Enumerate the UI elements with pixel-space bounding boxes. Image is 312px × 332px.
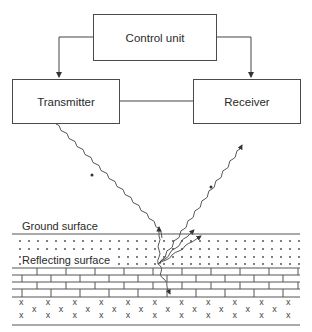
svg-text:x: x bbox=[19, 297, 24, 307]
svg-text:x: x bbox=[72, 310, 77, 320]
svg-text:x: x bbox=[179, 310, 184, 320]
svg-text:x: x bbox=[85, 304, 90, 314]
svg-text:x: x bbox=[179, 297, 184, 307]
svg-text:x: x bbox=[19, 310, 24, 320]
svg-text:x: x bbox=[233, 297, 238, 307]
reflecting-surface-label: Reflecting surface bbox=[22, 254, 112, 266]
svg-text:x: x bbox=[139, 304, 144, 314]
ground-surface-label: Ground surface bbox=[22, 220, 98, 232]
svg-text:x: x bbox=[112, 304, 117, 314]
svg-text:x: x bbox=[126, 310, 131, 320]
receiver-block: Receiver bbox=[193, 79, 301, 124]
svg-text:x: x bbox=[272, 304, 277, 314]
svg-text:x: x bbox=[286, 297, 291, 307]
svg-text:x: x bbox=[259, 310, 264, 320]
svg-text:x: x bbox=[46, 310, 51, 320]
svg-text:x: x bbox=[192, 304, 197, 314]
rock-crosses: xxxxxxxxxxxxxxxxxxxxxxxxxxxxxxxx bbox=[19, 297, 291, 320]
svg-text:x: x bbox=[99, 297, 104, 307]
svg-text:x: x bbox=[46, 297, 51, 307]
svg-text:x: x bbox=[206, 310, 211, 320]
svg-text:x: x bbox=[166, 304, 171, 314]
svg-text:x: x bbox=[206, 297, 211, 307]
control-unit-block: Control unit bbox=[93, 14, 217, 61]
svg-text:x: x bbox=[59, 304, 64, 314]
svg-text:x: x bbox=[126, 297, 131, 307]
transmitter-label: Transmitter bbox=[37, 96, 95, 108]
svg-text:x: x bbox=[72, 297, 77, 307]
svg-text:x: x bbox=[153, 297, 158, 307]
svg-text:x: x bbox=[219, 304, 224, 314]
svg-text:x: x bbox=[259, 297, 264, 307]
svg-text:x: x bbox=[233, 310, 238, 320]
svg-text:x: x bbox=[153, 310, 158, 320]
reflected-wave bbox=[160, 145, 242, 264]
svg-text:x: x bbox=[99, 310, 104, 320]
control-unit-label: Control unit bbox=[126, 32, 185, 44]
svg-text:x: x bbox=[32, 304, 37, 314]
receiver-label: Receiver bbox=[224, 96, 269, 108]
svg-text:x: x bbox=[246, 304, 251, 314]
svg-text:x: x bbox=[286, 310, 291, 320]
transmitter-block: Transmitter bbox=[12, 79, 120, 124]
